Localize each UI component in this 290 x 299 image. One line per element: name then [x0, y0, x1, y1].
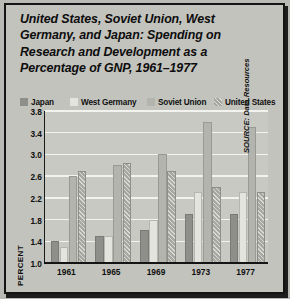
y-axis-tick-label: 2.6: [22, 172, 42, 182]
title-line-2: Germany, and Japan: Spending on: [20, 27, 272, 43]
x-axis-tick-label-1973: 1973: [181, 267, 221, 277]
bar-japan-1969: [140, 230, 149, 263]
bar-soviet-union-1961: [69, 176, 78, 263]
x-axis-line: [44, 262, 268, 264]
legend-label-soviet-union: Soviet Union: [158, 98, 206, 107]
bar-group-1965: [95, 111, 131, 263]
bar-west-germany-1965: [104, 236, 113, 263]
bar-japan-1973: [185, 214, 194, 263]
bar-west-germany-1969: [149, 220, 158, 263]
bar-west-germany-1977: [239, 192, 248, 263]
legend-swatch-soviet-union: [147, 98, 155, 106]
bar-group-1973: [185, 111, 221, 263]
title-line-1: United States, Soviet Union, West: [20, 11, 272, 27]
bar-united-states-1965: [123, 163, 132, 263]
legend-swatch-united-states: [214, 98, 222, 106]
y-axis-tick-label: 3.8: [22, 107, 42, 117]
bar-group-1969: [140, 111, 176, 263]
x-axis-tick-label-1961: 1961: [46, 267, 86, 277]
legend-label-west-germany: West Germany: [81, 98, 136, 107]
bar-west-germany-1961: [60, 247, 69, 263]
bar-soviet-union-1965: [113, 165, 122, 263]
bar-soviet-union-1973: [203, 122, 212, 263]
legend-item-west-germany: West Germany: [70, 93, 136, 105]
bar-japan-1961: [51, 241, 60, 263]
chart-card: United States, Soviet Union, West German…: [4, 3, 285, 294]
y-axis-tick-label: 1.8: [22, 215, 42, 225]
title-line-4: Percentage of GNP, 1961–1977: [20, 60, 272, 76]
y-axis-tick-label: 2.2: [22, 193, 42, 203]
page-title: United States, Soviet Union, West German…: [20, 11, 272, 77]
y-axis-tick-label: 1.0: [22, 259, 42, 269]
bar-united-states-1969: [167, 171, 176, 263]
legend-item-soviet-union: Soviet Union: [147, 93, 206, 105]
x-axis-tick-label-1977: 1977: [226, 267, 266, 277]
bar-west-germany-1973: [194, 192, 203, 263]
plot-area: [44, 111, 268, 263]
bar-japan-1965: [95, 236, 104, 263]
legend-swatch-japan: [20, 98, 28, 106]
title-line-3: Research and Development as a: [20, 44, 272, 60]
chart-legend: Japan West Germany Soviet Union United S…: [20, 93, 276, 105]
x-axis-tick-label-1969: 1969: [136, 267, 176, 277]
legend-item-japan: Japan: [20, 93, 54, 105]
x-axis-tick-label-1965: 1965: [91, 267, 131, 277]
bar-united-states-1973: [212, 187, 221, 263]
bar-japan-1977: [230, 214, 239, 263]
source-note: SOURCE: Data Resources: [242, 58, 251, 153]
y-axis-tick-label: 3.0: [22, 150, 42, 160]
y-axis-tick-label: 1.4: [22, 237, 42, 247]
legend-swatch-west-germany: [70, 98, 78, 106]
y-axis-tick-label: 3.4: [22, 128, 42, 138]
bar-group-1961: [51, 111, 87, 263]
bar-united-states-1961: [78, 171, 87, 263]
bar-soviet-union-1969: [158, 154, 167, 263]
bar-united-states-1977: [257, 192, 266, 263]
y-axis: PERCENT 1.01.41.82.22.63.03.43.8: [16, 111, 42, 266]
